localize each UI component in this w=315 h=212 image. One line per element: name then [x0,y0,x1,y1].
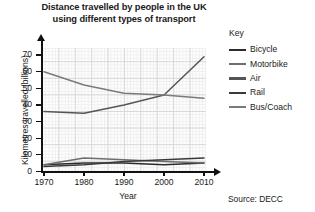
x-axis-line [41,171,216,173]
y-tick-60 [36,71,42,72]
y-tick-40 [36,104,42,105]
y-tick-30 [36,121,42,122]
y-tick-label-10: 10 [10,150,32,159]
legend-swatch-bus-coach [229,106,246,108]
x-axis-arrow-icon [214,168,221,176]
plot-area [42,48,206,172]
x-tick-1990 [123,172,124,176]
x-tick-1970 [43,172,44,176]
y-tick-label-20: 20 [10,134,32,143]
y-axis-arrow-icon [37,34,45,41]
series-lines [42,48,206,172]
y-tick-label-40: 40 [10,100,32,109]
legend-item-motorbike: Motorbike [229,57,315,71]
chart-title: Distance travelled by people in the UK u… [18,2,230,25]
x-tick-label-1980: 1980 [67,178,101,187]
x-tick-1980 [83,172,84,176]
y-tick-label-70: 70 [10,50,32,59]
x-tick-label-2000: 2000 [147,178,181,187]
series-line-air [44,57,204,114]
legend-item-air: Air [229,71,315,85]
y-tick-0 [36,171,42,172]
x-tick-2010 [203,172,204,176]
x-tick-2000 [163,172,164,176]
legend-title: Key [229,28,315,38]
legend-label-rail: Rail [250,88,265,97]
legend-swatch-air [229,77,246,79]
legend-label-air: Air [250,74,261,83]
legend-swatch-bicycle [229,49,246,51]
legend-item-bus-coach: Bus/Coach [229,100,315,114]
legend-item-rail: Rail [229,86,315,100]
series-line-bus-coach [44,72,204,99]
legend-label-bicycle: Bicycle [250,45,277,54]
x-axis-label: Year [98,191,158,201]
legend: Key BicycleMotorbikeAirRailBus/Coach [229,28,315,114]
transport-distance-line-chart: Distance travelled by people in the UK u… [0,0,315,212]
y-tick-label-0: 0 [10,167,32,176]
y-tick-20 [36,138,42,139]
x-tick-label-2010: 2010 [187,178,221,187]
chart-title-line-1: Distance travelled by people in the UK [18,2,230,14]
y-tick-70 [36,54,42,55]
y-axis-line [41,40,43,173]
y-tick-50 [36,88,42,89]
legend-label-bus-coach: Bus/Coach [250,103,292,112]
legend-label-motorbike: Motorbike [250,60,288,69]
y-tick-10 [36,154,42,155]
source-credit: Source: DECC [228,194,283,204]
y-tick-label-50: 50 [10,84,32,93]
legend-swatch-motorbike [229,63,246,65]
legend-swatch-rail [229,92,246,94]
chart-title-line-2: using different types of transport [18,14,230,26]
x-tick-label-1990: 1990 [107,178,141,187]
y-tick-label-30: 30 [10,117,32,126]
y-tick-label-60: 60 [10,67,32,76]
x-tick-label-1970: 1970 [27,178,61,187]
series-line-bicycle [44,163,204,165]
legend-item-bicycle: Bicycle [229,43,315,57]
